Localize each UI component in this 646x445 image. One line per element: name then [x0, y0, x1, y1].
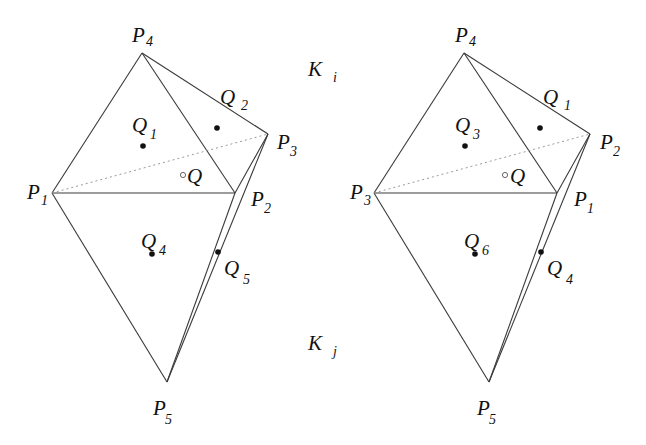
- edge-line: [489, 193, 557, 382]
- edge-line: [52, 53, 142, 193]
- vertex-label-p4-subscript: 4: [469, 34, 476, 49]
- vertex-label-p1: P: [573, 187, 587, 211]
- edge-line: [374, 53, 464, 193]
- edge-line: [464, 53, 590, 134]
- point-marker-icon: [462, 143, 468, 149]
- point-label-q4: Q: [547, 256, 562, 280]
- vertex-label-p2: P: [250, 187, 264, 211]
- point-label-q4: Q: [141, 229, 156, 253]
- edge-line: [235, 134, 268, 193]
- point-label-q2: Q: [220, 85, 235, 109]
- point-label-q: Q: [510, 164, 525, 188]
- vertex-label-p4: P: [131, 23, 145, 47]
- query-point-icon: [180, 172, 185, 177]
- point-marker-icon: [214, 125, 220, 131]
- vertex-label-p1: P: [26, 180, 40, 204]
- vertex-label-p3-subscript: 3: [289, 144, 297, 159]
- vertex-label-p3-subscript: 3: [363, 193, 371, 208]
- point-marker-icon: [537, 125, 543, 131]
- element-label-kj-subscript: j: [331, 344, 337, 359]
- vertex-label-p1-subscript: 1: [41, 193, 48, 208]
- point-marker-icon: [538, 249, 544, 255]
- right-tetrahedra-figure: P4P3P1P2P5Q3Q1QQ6Q4: [349, 23, 620, 427]
- vertex-label-p2-subscript: 2: [264, 201, 271, 216]
- point-label-q1-subscript: 1: [564, 98, 571, 113]
- vertex-label-p5: P: [152, 396, 166, 420]
- vertex-label-p3: P: [276, 130, 290, 154]
- vertex-label-p4: P: [454, 23, 468, 47]
- point-label-q3: Q: [455, 113, 470, 137]
- edge-line: [167, 134, 268, 382]
- vertex-label-p1-subscript: 1: [587, 201, 594, 216]
- edge-line: [374, 193, 489, 382]
- vertex-label-p3: P: [349, 180, 363, 204]
- diagram-canvas: P4P1P2P3P5Q1Q2QQ4Q5 P4P3P1P2P5Q3Q1QQ6Q4 …: [0, 0, 646, 445]
- point-marker-icon: [140, 143, 146, 149]
- query-point-icon: [502, 172, 507, 177]
- point-label-q1: Q: [132, 113, 147, 137]
- point-label-q5: Q: [224, 256, 239, 280]
- vertex-label-p2-subscript: 2: [613, 144, 620, 159]
- element-label-ki: K: [307, 57, 323, 81]
- vertex-label-p5-subscript: 5: [165, 412, 172, 427]
- point-label-q3-subscript: 3: [472, 127, 480, 142]
- point-label-q5-subscript: 5: [243, 272, 250, 287]
- edge-line: [52, 193, 167, 382]
- vertex-label-p5-subscript: 5: [489, 412, 496, 427]
- point-label-q6-subscript: 6: [482, 243, 489, 258]
- point-label-q1: Q: [543, 85, 558, 109]
- point-label-q4-subscript: 4: [159, 243, 166, 258]
- element-labels: KiKj: [307, 57, 337, 359]
- point-label-q2-subscript: 2: [241, 98, 248, 113]
- edge-line: [142, 53, 268, 134]
- point-label-q6: Q: [464, 229, 479, 253]
- edge-line: [167, 193, 235, 382]
- left-tetrahedra-figure: P4P1P2P3P5Q1Q2QQ4Q5: [26, 23, 297, 427]
- point-label-q: Q: [187, 164, 202, 188]
- element-label-kj: K: [307, 331, 323, 355]
- point-label-q1-subscript: 1: [150, 127, 157, 142]
- element-label-ki-subscript: i: [333, 70, 337, 85]
- vertex-label-p5: P: [476, 396, 490, 420]
- edge-line: [489, 134, 590, 382]
- point-label-q4-subscript: 4: [566, 272, 573, 287]
- edge-line: [557, 134, 590, 193]
- point-marker-icon: [215, 249, 221, 255]
- vertex-label-p4-subscript: 4: [146, 34, 153, 49]
- vertex-label-p2: P: [599, 130, 613, 154]
